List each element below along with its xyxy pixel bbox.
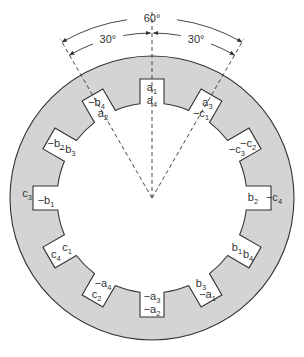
slot-0-inner-label: a4 xyxy=(147,94,157,109)
slot-8-inner-label: c1 xyxy=(62,241,72,256)
stator-diagram: a1a4a3−c1−c2−c3b2−c4b4b1−a1b3−a2−a3c2−a4… xyxy=(0,0,304,357)
dimension-60-label: 60° xyxy=(144,12,161,24)
slot-8-outer-label: c4 xyxy=(51,248,61,263)
slot-11-inner-label: a2 xyxy=(98,107,108,122)
dimension-30-right-label: 30° xyxy=(188,33,205,45)
dimension-30-left-label: 30° xyxy=(100,33,117,45)
slot-6-outer-label: −a2 xyxy=(144,303,161,318)
stator-svg: a1a4a3−c1−c2−c3b2−c4b4b1−a1b3−a2−a3c2−a4… xyxy=(0,0,304,357)
slot-9-inner-label: −b1 xyxy=(38,194,55,209)
slot-10-inner-label: −b3 xyxy=(59,143,76,158)
slot-1-inner-label: −c1 xyxy=(193,107,209,122)
slot-4-inner-label: b1 xyxy=(232,241,242,256)
slot-5-inner-label: b3 xyxy=(196,277,206,292)
slot-3-inner-label: b2 xyxy=(248,191,258,206)
slot-4-outer-label: b4 xyxy=(243,248,253,263)
